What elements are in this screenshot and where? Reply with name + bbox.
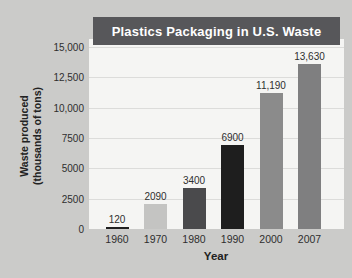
x-tick-label-1960: 1960	[105, 233, 128, 245]
y-tick-label: 5000	[62, 163, 84, 174]
bar-2007	[298, 64, 321, 229]
chart-title: Plastics Packaging in U.S. Waste	[112, 24, 322, 39]
y-tick-label: 2500	[62, 193, 84, 204]
y-axis-title: Waste produced (thousands of tons)	[18, 87, 43, 185]
bar-1980	[183, 188, 206, 229]
bar-1960	[106, 227, 129, 229]
x-tick-label-2000: 2000	[259, 233, 282, 245]
x-tick-label-2007: 2007	[298, 233, 321, 245]
bar-1970	[144, 204, 167, 229]
y-tick-label: 0	[78, 224, 84, 235]
y-axis-title-line1: Waste produced	[18, 87, 31, 185]
bar-value-label-1970: 2090	[144, 191, 166, 202]
x-axis-title: Year	[204, 250, 228, 262]
bar-value-label-2000: 11,190	[256, 80, 286, 91]
y-tick-label: 15,000	[53, 42, 84, 53]
x-tick-label-1980: 1980	[182, 233, 205, 245]
chart-title-band: Plastics Packaging in U.S. Waste	[93, 17, 340, 45]
gridline-15000	[89, 47, 344, 48]
y-tick-label: 7500	[62, 133, 84, 144]
bar-chart: Waste produced (thousands of tons) 12020…	[0, 0, 352, 278]
y-axis-title-line2: (thousands of tons)	[31, 87, 44, 185]
x-tick-label-1990: 1990	[221, 233, 244, 245]
y-tick-label: 10,000	[53, 102, 84, 113]
bar-2000	[260, 93, 283, 229]
bar-value-label-1980: 3400	[183, 175, 205, 186]
bar-value-label-1990: 6900	[221, 132, 243, 143]
plot-area: 12020903400690011,19013,630	[89, 39, 344, 229]
y-tick-label: 12,500	[53, 72, 84, 83]
bar-1990	[221, 145, 244, 229]
bar-value-label-1960: 120	[109, 214, 126, 225]
x-tick-label-1970: 1970	[144, 233, 167, 245]
bar-value-label-2007: 13,630	[294, 51, 325, 62]
